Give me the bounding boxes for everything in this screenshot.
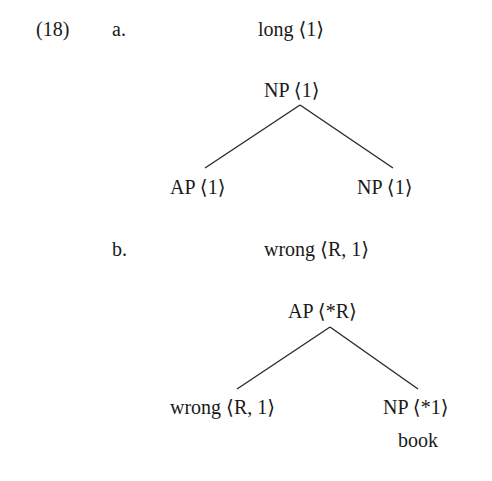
tree-b-left-child: wrong ⟨R, 1⟩ xyxy=(170,397,275,417)
tree-a-left-child: AP ⟨1⟩ xyxy=(170,177,225,197)
part-b-lexical-entry: wrong ⟨R, 1⟩ xyxy=(264,239,369,259)
part-a-label: a. xyxy=(112,19,126,39)
edge-b-right xyxy=(330,327,418,389)
edge-b-left xyxy=(237,327,330,389)
tree-a-root-node: NP ⟨1⟩ xyxy=(264,80,319,100)
tree-b-right-child: NP ⟨*1⟩ xyxy=(383,397,448,417)
tree-b-root-node: AP ⟨*R⟩ xyxy=(288,301,357,321)
part-a-lexical-entry: long ⟨1⟩ xyxy=(258,19,324,39)
part-b-label: b. xyxy=(112,239,127,259)
edge-a-right xyxy=(300,105,393,168)
edge-a-left xyxy=(205,105,300,168)
tree-a-right-child: NP ⟨1⟩ xyxy=(357,177,412,197)
example-number: (18) xyxy=(36,19,69,39)
tree-b-leaf-book: book xyxy=(398,430,438,450)
